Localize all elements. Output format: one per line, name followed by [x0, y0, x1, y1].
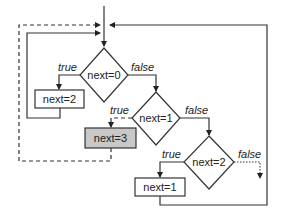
decision-next-0-label: next=0 [87, 69, 120, 81]
edge-d3-true: true [160, 148, 184, 177]
process-next-1: next=1 [135, 178, 185, 196]
edge-d3-false-label: false [238, 148, 261, 160]
edge-d2-true-label: true [110, 104, 129, 116]
decision-next-1: next=1 [132, 92, 180, 145]
edge-d2-false-label: false [185, 104, 208, 116]
process-next-1-label: next=1 [143, 181, 176, 193]
process-next-2: next=2 [35, 90, 84, 108]
edge-d1-false-label: false [131, 61, 154, 73]
edge-d1-true-label: true [58, 61, 77, 73]
decision-next-1-label: next=1 [139, 112, 172, 124]
decision-next-0: next=0 [80, 48, 128, 102]
edge-d3-false: false [234, 148, 261, 178]
process-next-2-label: next=2 [43, 93, 76, 105]
flowchart-canvas: next=0 true false next=2 next=1 true fal… [0, 0, 281, 216]
edge-d2-true: true [110, 104, 132, 127]
process-next-3-label: next=3 [94, 132, 127, 144]
edge-d3-true-label: true [162, 148, 181, 160]
edge-d1-false: false [128, 61, 156, 91]
process-next-3: next=3 [85, 128, 136, 148]
decision-next-2-label: next=2 [192, 156, 225, 168]
edge-d2-false: false [180, 104, 209, 135]
edge-d1-true: true [58, 61, 80, 89]
decision-next-2: next=2 [184, 136, 234, 189]
